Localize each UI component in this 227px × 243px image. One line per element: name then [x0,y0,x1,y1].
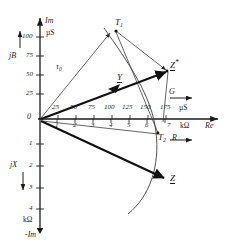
tick-r-2: 2 [73,122,77,129]
tick-origin: 0 [27,113,31,121]
tick-r-3: 3 [91,122,95,129]
diagram-canvas: Im µS jB 100 75 50 25 0 1 2 3 4 kΩ jX -I… [0,0,227,243]
tick-g-25: 25 [52,104,59,111]
z-conj-superscript: * [175,59,179,67]
t2-subscript: 2 [163,137,166,143]
tick-r-5: 5 [127,122,131,129]
axis-unit-microsiemens: µS [46,29,55,37]
tick-im-neg-3: 3 [29,184,33,191]
point-label-t1: T1 [115,18,123,28]
tick-g-150: 150 [140,104,151,111]
tick-g-175: 175 [160,104,171,111]
tick-g-100: 100 [104,104,115,111]
tick-r-4: 4 [109,122,113,129]
diagram-vector-graphics [0,0,227,243]
tick-r-6: 6 [145,122,149,129]
tick-g-125: 125 [122,104,133,111]
tau0-subscript: 0 [59,66,62,72]
tick-g-50: 50 [70,104,77,111]
imaginary-axis [36,18,44,234]
vector-label-z: Z [170,174,175,184]
axis-unit-kiloohm-vertical: kΩ [23,216,32,224]
point-label-z-conjugate: Z* [170,60,179,70]
axis-unit-kiloohm-horizontal: kΩ [180,122,189,130]
axis-label-jb: jB [9,52,16,60]
axis-label-jx: jX [10,161,17,169]
tick-im-25: 25 [26,90,33,97]
axis-unit-microsiemens-horizontal: µS [179,104,188,112]
tick-im-50: 50 [26,71,33,78]
axis-label-neg-im: -Im [25,231,36,239]
tick-g-75: 75 [88,104,95,111]
point-label-t2: T2 [158,133,166,143]
axis-label-g: G [169,88,175,96]
axis-label-im-top: Im [45,17,53,25]
vector-z [41,121,164,178]
tick-r-7: 7 [167,122,171,129]
tick-r-1: 1 [55,122,59,129]
tick-im-neg-2: 2 [29,162,33,169]
axis-label-r: R [172,134,177,142]
axis-label-re: Re [205,122,213,130]
tick-im-100: 100 [22,33,33,40]
vector-label-y: Y [117,73,122,83]
line-label-tau0: τ0 [56,63,62,72]
t1-subscript: 1 [120,22,123,28]
tick-im-75: 75 [26,52,33,59]
tick-im-neg-1: 1 [29,140,33,147]
tick-im-neg-4: 4 [29,205,33,212]
